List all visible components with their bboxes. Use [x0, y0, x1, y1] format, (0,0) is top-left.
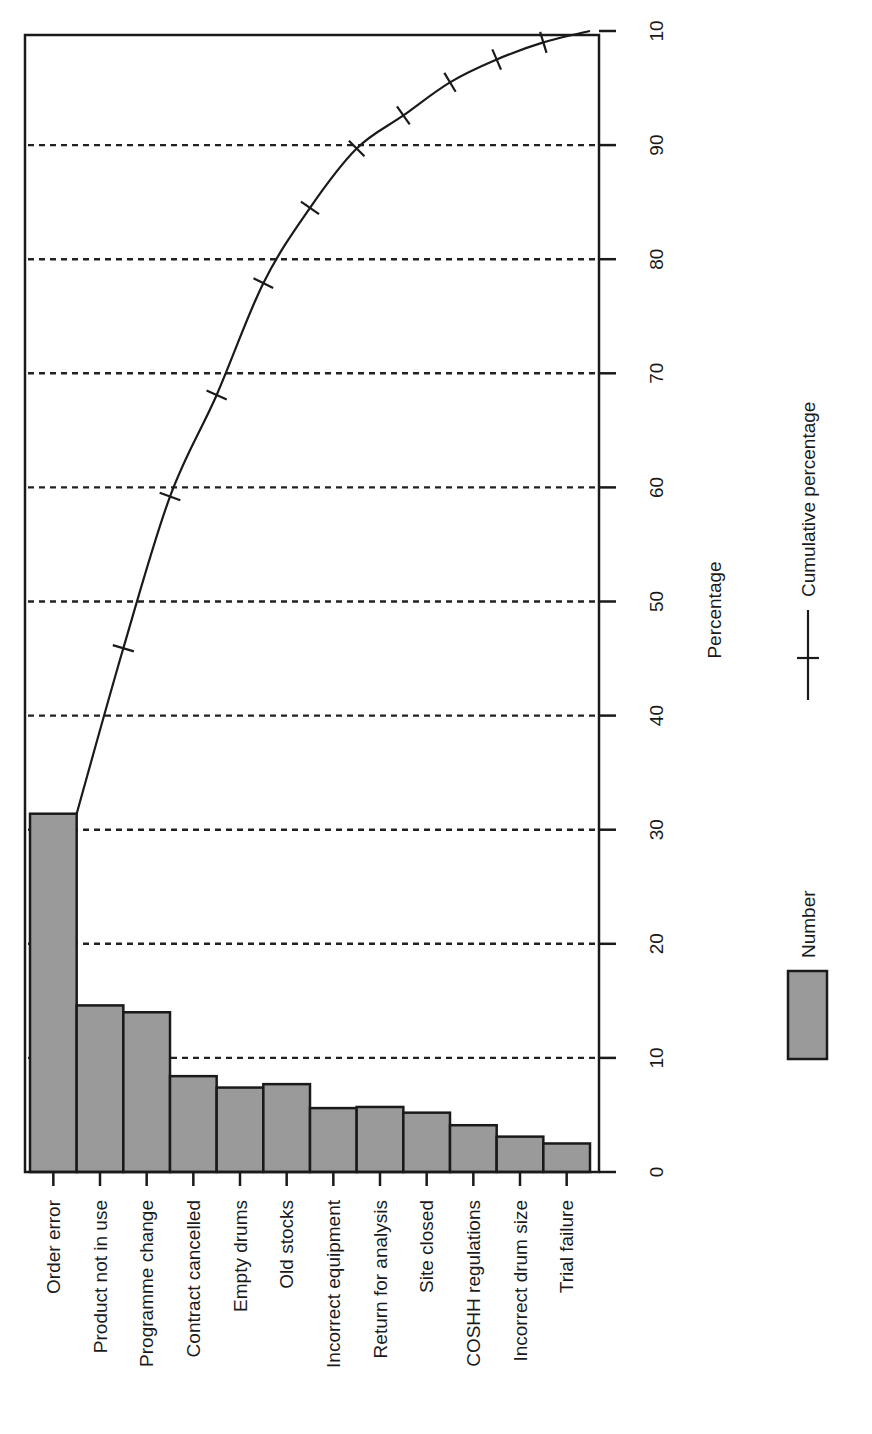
category-label: Contract cancelled: [183, 1200, 204, 1357]
cumulative-marker: [397, 106, 410, 124]
bar-return-for-analysis: [357, 1107, 404, 1172]
category-label: Incorrect drum size: [510, 1200, 531, 1362]
category-label: Site closed: [416, 1200, 437, 1293]
bar-product-not-in-use: [77, 1005, 124, 1172]
bar-old-stocks: [263, 1084, 310, 1172]
percentage-tick-label: 10: [646, 20, 667, 41]
gridlines: [28, 145, 599, 1058]
category-label: Trial failure: [556, 1200, 577, 1293]
cumulative-marker: [492, 49, 501, 69]
category-label: Empty drums: [230, 1200, 251, 1312]
bar-incorrect-equipment: [310, 1108, 357, 1172]
cumulative-marker: [444, 73, 455, 92]
legend-label-number: Number: [798, 890, 819, 958]
percentage-tick-label: 0: [646, 1167, 667, 1178]
percentage-tick-label: 30: [646, 819, 667, 840]
bar-incorrect-drum-size: [497, 1137, 544, 1172]
category-label: Product not in use: [90, 1200, 111, 1353]
percentage-tick-label: 20: [646, 933, 667, 954]
bar-contract-cancelled: [170, 1076, 217, 1172]
pareto-chart: 010203040506070809010 Order errorProduct…: [0, 0, 872, 1434]
legend-label-cumulative: Cumulative percentage: [798, 402, 819, 597]
category-label: Programme change: [136, 1200, 157, 1367]
category-label: Return for analysis: [370, 1200, 391, 1358]
bars: [30, 814, 590, 1172]
bar-empty-drums: [217, 1088, 264, 1172]
cumulative-marker: [253, 278, 273, 288]
bar-site-closed: [403, 1113, 450, 1172]
bar-trial-failure: [543, 1143, 590, 1172]
category-label: Incorrect equipment: [323, 1199, 344, 1368]
cumulative-percentage-line: [77, 31, 590, 814]
bar-programme-change: [123, 1012, 170, 1172]
percentage-tick-label: 70: [646, 363, 667, 384]
percentage-tick-label: 10: [646, 1047, 667, 1068]
percentage-tick-label: 90: [646, 135, 667, 156]
cumulative-curve: [77, 31, 590, 814]
legend: Number Cumulative percentage: [788, 402, 827, 1059]
axis-title-percentage: Percentage: [704, 561, 725, 658]
category-label: Order error: [43, 1199, 64, 1294]
percentage-tick-label: 50: [646, 591, 667, 612]
category-label: Old stocks: [276, 1200, 297, 1289]
percentage-tick-label: 80: [646, 249, 667, 270]
category-axis-ticks: Order errorProduct not in useProgramme c…: [43, 1172, 577, 1368]
bar-order-error: [30, 814, 77, 1172]
cumulative-marker: [301, 202, 319, 215]
bar-coshh-regulations: [450, 1125, 497, 1172]
cumulative-marker: [207, 391, 227, 400]
percentage-tick-label: 40: [646, 705, 667, 726]
percentage-axis-ticks: 010203040506070809010: [599, 20, 667, 1177]
legend-swatch-number: [788, 971, 827, 1059]
category-label: COSHH regulations: [463, 1200, 484, 1367]
percentage-tick-label: 60: [646, 477, 667, 498]
